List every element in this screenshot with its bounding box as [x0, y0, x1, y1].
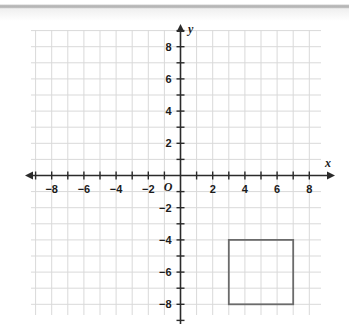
- x-tick-label: −2: [142, 183, 155, 195]
- y-tick-label: −6: [159, 266, 172, 278]
- y-tick-label: 4: [165, 105, 172, 117]
- y-tick-label: 2: [165, 137, 171, 149]
- origin-label: O: [164, 180, 173, 194]
- y-tick-label: −8: [159, 298, 172, 310]
- y-axis-label: y: [186, 22, 194, 36]
- x-tick-label: 6: [274, 183, 280, 195]
- coordinate-grid: −8−6−4−224688642−2−4−6−8 x y O: [0, 0, 349, 329]
- x-tick-label: 8: [306, 183, 312, 195]
- x-tick-label: −4: [110, 183, 123, 195]
- x-axis-label: x: [324, 156, 331, 170]
- x-tick-label: 4: [242, 183, 249, 195]
- x-tick-label: −8: [45, 183, 58, 195]
- x-tick-label: −6: [78, 183, 91, 195]
- x-axis-arrow-right: [327, 172, 335, 180]
- y-tick-label: 6: [165, 73, 171, 85]
- y-tick-label: 8: [165, 41, 171, 53]
- x-axis-arrow-left: [25, 172, 33, 180]
- coordinate-plane-figure: −8−6−4−224688642−2−4−6−8 x y O: [0, 0, 349, 329]
- x-tick-label: 2: [210, 183, 216, 195]
- y-tick-label: −4: [159, 234, 172, 246]
- grid-svg: −8−6−4−224688642−2−4−6−8 x y O: [0, 0, 349, 329]
- y-tick-label: −2: [159, 202, 172, 214]
